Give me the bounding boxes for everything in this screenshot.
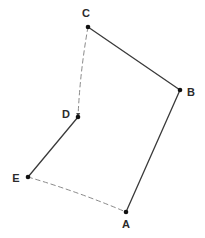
- edge-e-a: [28, 177, 126, 212]
- edge-c-d: [78, 27, 88, 117]
- vertex-label-d: D: [62, 109, 70, 120]
- vertex-label-a: A: [122, 219, 130, 230]
- edge-d-e: [28, 117, 78, 177]
- edges-group: [28, 27, 180, 212]
- vertex-label-c: C: [82, 8, 90, 19]
- geometry-figure-svg: [0, 0, 205, 238]
- vertex-label-b: B: [187, 87, 195, 98]
- vertices-group: [26, 25, 183, 215]
- vertex-label-e: E: [12, 173, 19, 184]
- vertex-dot-e: [26, 175, 31, 180]
- vertex-dot-c: [86, 25, 91, 30]
- vertex-dot-d: [76, 115, 81, 120]
- vertex-dot-a: [124, 210, 129, 215]
- edge-b-a: [126, 90, 180, 212]
- vertex-dot-b: [178, 88, 183, 93]
- geometry-figure-canvas: C B D E A: [0, 0, 205, 238]
- edge-c-b: [88, 27, 180, 90]
